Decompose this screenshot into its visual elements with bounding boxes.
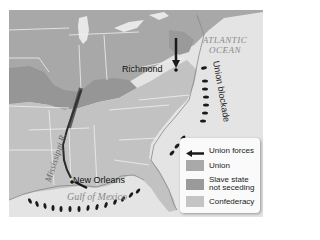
richmond-dot — [174, 68, 178, 72]
atlantic-ocean-label: ATLANTIC OCEAN — [195, 35, 255, 55]
map-legend: Union forces Union Slave state not seced… — [180, 138, 260, 213]
confederacy-swatch — [186, 196, 204, 207]
legend-item-union: Union — [186, 160, 230, 171]
arrow-left-icon — [186, 145, 204, 156]
legend-label-confederacy: Confederacy — [209, 198, 254, 206]
legend-item-slave-state: Slave state not seceding — [186, 176, 254, 192]
atlantic-label-line2: OCEAN — [195, 45, 255, 55]
legend-label-union-forces: Union forces — [209, 147, 254, 155]
atlantic-label-line1: ATLANTIC — [195, 35, 255, 45]
gulf-of-mexico-label: Gulf of Mexico — [67, 191, 127, 202]
richmond-label: Richmond — [122, 64, 163, 74]
legend-item-confederacy: Confederacy — [186, 196, 254, 207]
slave-state-swatch — [186, 179, 204, 190]
new-orleans-label: New Orleans — [73, 175, 125, 185]
legend-label-union: Union — [209, 162, 230, 170]
legend-label-slave-state-line2: not seceding — [209, 184, 254, 192]
legend-item-union-forces: Union forces — [186, 145, 254, 156]
union-swatch — [186, 160, 204, 171]
legend-label-slave-state: Slave state not seceding — [209, 176, 254, 192]
